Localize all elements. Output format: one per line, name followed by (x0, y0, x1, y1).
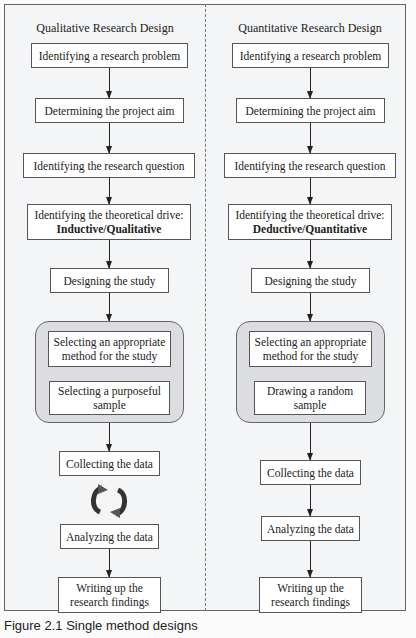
quant-step-analyzing-data: Analyzing the data (261, 516, 360, 541)
quant-step-research-question: Identifying the research question (224, 153, 396, 178)
arrow-down-icon (109, 423, 110, 451)
qualitative-title: Qualitative Research Design (5, 21, 205, 36)
arrow-down-icon (109, 549, 110, 577)
theoretical-drive-value: Inductive/Qualitative (57, 222, 162, 236)
qual-step-theoretical-drive: Identifying the theoretical drive: Induc… (27, 204, 191, 240)
qual-step-project-aim: Determining the project aim (35, 98, 184, 123)
theoretical-drive-label: Identifying the theoretical drive: (34, 208, 183, 222)
arrow-down-icon (310, 293, 311, 321)
quantitative-title: Quantitative Research Design (210, 21, 410, 36)
qual-step-select-method: Selecting an appropriate method for the … (48, 331, 171, 367)
quant-step-designing-study: Designing the study (251, 268, 370, 293)
arrow-down-icon (310, 541, 311, 577)
arrow-down-icon (310, 485, 311, 516)
quant-step-random-sample: Drawing a random sample (254, 381, 366, 415)
theoretical-drive-value: Deductive/Quantitative (253, 222, 367, 236)
figure-caption: Figure 2.1 Single method designs (4, 618, 198, 633)
quant-step-project-aim: Determining the project aim (236, 98, 385, 123)
qual-step-purposeful-sample: Selecting a purposeful sample (49, 381, 170, 415)
arrow-down-icon (310, 123, 311, 153)
quant-step-writing-up: Writing up the research findings (259, 577, 362, 613)
quant-step-collecting-data: Collecting the data (260, 460, 361, 485)
qual-step-research-problem: Identifying a research problem (31, 43, 188, 68)
theoretical-drive-label: Identifying the theoretical drive: (235, 208, 384, 222)
quant-step-theoretical-drive: Identifying the theoretical drive: Deduc… (228, 204, 392, 240)
quantitative-column: Quantitative Research Design Identifying… (210, 4, 410, 604)
arrow-down-icon (109, 68, 110, 98)
iterative-cycle-icon (88, 484, 130, 518)
qual-step-analyzing-data: Analyzing the data (60, 524, 159, 549)
quant-step-select-method: Selecting an appropriate method for the … (249, 331, 372, 367)
arrow-down-icon (310, 68, 311, 98)
qual-step-writing-up: Writing up the research findings (58, 577, 161, 613)
arrow-down-icon (109, 240, 110, 268)
qualitative-column: Qualitative Research Design Identifying … (5, 4, 205, 604)
qual-step-research-question: Identifying the research question (23, 153, 195, 178)
qual-step-designing-study: Designing the study (50, 268, 169, 293)
arrow-down-icon (109, 178, 110, 204)
qual-step-collecting-data: Collecting the data (59, 451, 160, 476)
column-divider (205, 4, 206, 611)
arrow-down-icon (310, 423, 311, 460)
arrow-down-icon (109, 123, 110, 153)
arrow-down-icon (310, 240, 311, 268)
quant-step-research-problem: Identifying a research problem (232, 43, 389, 68)
arrow-down-icon (109, 293, 110, 321)
arrow-down-icon (310, 178, 311, 204)
